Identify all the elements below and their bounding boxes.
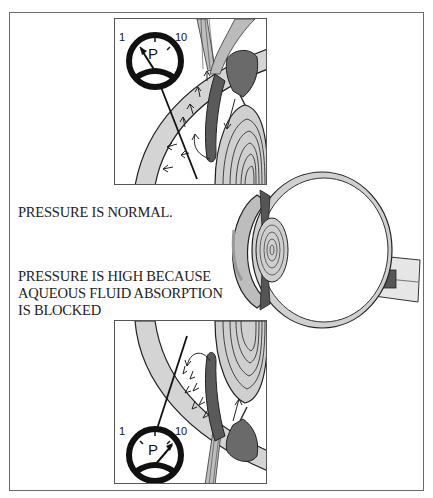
eye-cross-section (212, 160, 424, 340)
caption-high-line-3: IS BLOCKED (18, 302, 223, 319)
svg-text:1: 1 (119, 31, 125, 43)
high-pressure-panel: P 1 10 (114, 320, 267, 484)
caption-high-line-2: AQUEOUS FLUID ABSORPTION (18, 285, 223, 302)
svg-text:10: 10 (175, 425, 187, 437)
caption-normal-text: PRESSURE IS NORMAL. (18, 204, 173, 220)
svg-text:P: P (148, 441, 158, 458)
pressure-gauge-normal: P 1 10 (119, 31, 187, 87)
svg-text:1: 1 (119, 425, 125, 437)
caption-high-pressure: PRESSURE IS HIGH BECAUSE AQUEOUS FLUID A… (18, 268, 223, 319)
svg-text:P: P (148, 45, 158, 62)
caption-high-line-1: PRESSURE IS HIGH BECAUSE (18, 268, 223, 285)
pressure-gauge-high: P 1 10 (119, 425, 187, 481)
blocked-drainage-illustration: P 1 10 (115, 321, 267, 484)
svg-text:10: 10 (175, 31, 187, 43)
caption-normal-pressure: PRESSURE IS NORMAL. (18, 204, 173, 221)
